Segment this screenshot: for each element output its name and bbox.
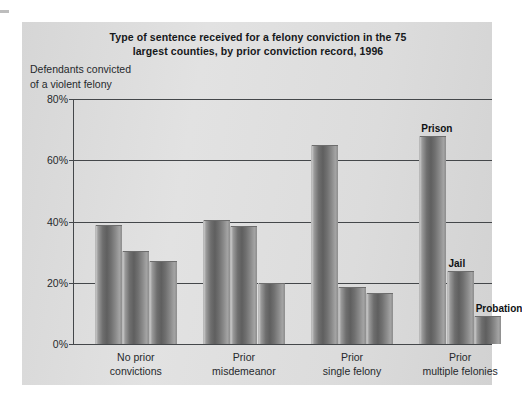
- category-label-line: Prior: [212, 351, 276, 365]
- bar-probation-prior-single-felony: [366, 293, 393, 344]
- category-label-line: single felony: [323, 365, 381, 379]
- chart-title-line-1: Type of sentence received for a felony c…: [62, 30, 454, 44]
- bar-jail-prior-single-felony: [338, 287, 365, 344]
- y-tick-mark: [69, 344, 73, 345]
- category-label-prior-multiple-felonies: Priormultiple felonies: [422, 351, 497, 378]
- bar-top-edge: [339, 287, 365, 288]
- bar-top-edge: [420, 136, 446, 137]
- y-tick-mark: [69, 283, 73, 284]
- bar-jail-no-prior-convictions: [122, 251, 149, 344]
- chart-panel: Type of sentence received for a felony c…: [22, 22, 492, 385]
- gridline-80: 80%: [73, 99, 492, 100]
- series-label-jail: Jail: [449, 258, 466, 269]
- y-axis-caption: Defendants convicted of a violent felony: [30, 62, 131, 91]
- y-tick-label-40: 40%: [47, 216, 68, 228]
- plot-area: 0%20%40%60%80% PrisonJailProbation No pr…: [73, 99, 492, 344]
- bar-top-edge: [231, 226, 257, 227]
- bar-top-edge: [312, 145, 338, 146]
- bar-top-edge: [204, 220, 230, 221]
- bar-prison-prior-single-felony: [311, 145, 338, 344]
- bar-prison-no-prior-convictions: [95, 225, 122, 344]
- bar-top-edge: [259, 283, 285, 284]
- bar-probation-no-prior-convictions: [149, 261, 176, 344]
- category-label-line: Prior: [422, 351, 497, 365]
- y-tick-label-20: 20%: [47, 277, 68, 289]
- bar-top-edge: [367, 293, 393, 294]
- chart-title-line-2: largest counties, by prior conviction re…: [62, 44, 454, 58]
- y-axis-caption-line-2: of a violent felony: [30, 77, 131, 92]
- series-label-probation: Probation: [476, 303, 522, 314]
- bar-probation-prior-multiple-felonies: [474, 316, 501, 344]
- bar-jail-prior-multiple-felonies: [447, 271, 474, 345]
- bar-top-edge: [150, 261, 176, 262]
- bar-prison-prior-multiple-felonies: [419, 136, 446, 344]
- y-tick-mark: [69, 99, 73, 100]
- y-tick-mark: [69, 160, 73, 161]
- category-label-line: misdemeanor: [212, 365, 276, 379]
- bar-jail-prior-misdemeanor: [230, 226, 257, 344]
- bar-probation-prior-misdemeanor: [258, 283, 285, 344]
- category-label-line: Prior: [323, 351, 381, 365]
- category-label-line: No prior: [110, 351, 162, 365]
- gridline-0: 0%: [73, 344, 492, 345]
- scan-edge-artifact: [0, 10, 9, 13]
- category-label-line: multiple felonies: [422, 365, 497, 379]
- category-label-prior-misdemeanor: Priormisdemeanor: [212, 351, 276, 378]
- chart-title: Type of sentence received for a felony c…: [62, 30, 454, 58]
- bar-top-edge: [475, 316, 501, 317]
- bar-prison-prior-misdemeanor: [203, 220, 230, 344]
- category-label-line: convictions: [110, 365, 162, 379]
- series-label-prison: Prison: [421, 123, 452, 134]
- y-tick-label-80: 80%: [47, 93, 68, 105]
- bar-top-edge: [448, 271, 474, 272]
- y-tick-label-0: 0%: [53, 338, 68, 350]
- category-label-prior-single-felony: Priorsingle felony: [323, 351, 381, 378]
- y-tick-mark: [69, 222, 73, 223]
- bar-top-edge: [123, 251, 149, 252]
- category-label-no-prior-convictions: No priorconvictions: [110, 351, 162, 378]
- bar-top-edge: [96, 225, 122, 226]
- y-axis-caption-line-1: Defendants convicted: [30, 62, 131, 77]
- y-tick-label-60: 60%: [47, 154, 68, 166]
